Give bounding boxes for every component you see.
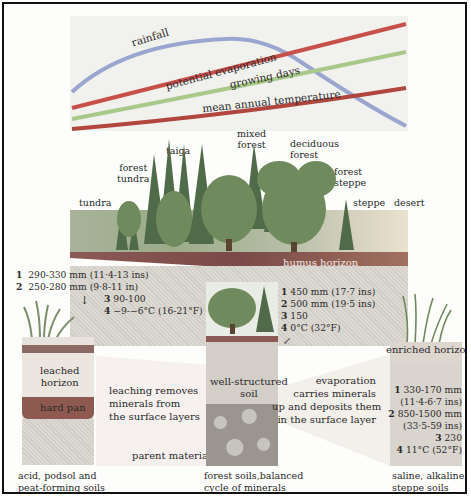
- caption-middle: forest soils,balanced cycle of minerals: [204, 470, 303, 494]
- tundra-grass: [22, 299, 82, 339]
- stat-row: 2 850-1500 mm: [386, 408, 462, 420]
- caption-left: acid, podsol and peat-forming soils: [18, 470, 105, 494]
- podsol-column: [22, 337, 94, 465]
- stat-row: 2 500 mm (19·5 ins): [281, 298, 375, 310]
- leaching-description: leaching removes minerals from the surfa…: [109, 384, 200, 423]
- caption-right: saline, alkaline, steppe soils: [392, 470, 467, 494]
- forest-trees: [4, 4, 467, 264]
- steppe-grass: [399, 294, 459, 344]
- forest-column-tree-icon: [206, 282, 278, 336]
- label-enriched-horizon: enriched horizon: [386, 344, 467, 355]
- evaporation-description: evaporation carries minerals up and depo…: [272, 374, 376, 426]
- stat-row: 1 450 mm (17·7 ins): [281, 286, 375, 298]
- podsol-top-band: [22, 345, 94, 353]
- label-parent-material: parent material: [132, 450, 211, 461]
- label-hard-pan: hard pan: [40, 402, 86, 413]
- stat-row: 1 290-330 mm (11·4-13 ins): [16, 269, 203, 281]
- stat-row: (11·4-6·7 ins): [386, 396, 462, 408]
- forest-column: [206, 336, 278, 466]
- stat-row: 3 150: [281, 310, 375, 322]
- diagram-frame: rainfall potential evaporation growing d…: [2, 2, 467, 494]
- podsol-subsoil: [22, 419, 94, 465]
- stat-row: 4 0°C (32°F): [281, 322, 375, 334]
- stat-row: 2 250-280 mm (9·8-11 in): [16, 281, 203, 293]
- stats-right: 1 330-170 mm (11·4-6·7 ins) 2 850-1500 m…: [386, 384, 462, 456]
- stat-row: 4 11°C (52°F): [386, 444, 462, 456]
- label-leached-horizon: leached horizon: [40, 365, 79, 389]
- stat-row: (33·5-59 ins): [386, 420, 462, 432]
- stat-row: 3 230: [386, 432, 462, 444]
- stats-middle: 1 450 mm (17·7 ins) 2 500 mm (19·5 ins) …: [281, 286, 375, 334]
- down-arrow-icon: ↙: [283, 335, 291, 346]
- parent-rock-layer: [206, 404, 278, 466]
- stat-row: 1 330-170 mm: [386, 384, 462, 396]
